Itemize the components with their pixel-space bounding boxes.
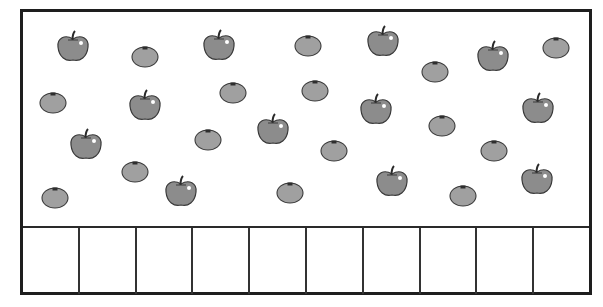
counting-box[interactable] xyxy=(23,228,80,294)
small-apple-icon xyxy=(428,113,456,141)
big-apple-icon xyxy=(519,163,555,201)
small-apple-icon xyxy=(194,127,222,155)
counting-box[interactable] xyxy=(80,228,137,294)
counting-grid xyxy=(23,226,589,294)
small-apple-icon xyxy=(131,44,159,72)
big-apple-icon xyxy=(127,89,163,127)
small-apple-icon xyxy=(320,138,348,166)
counting-box[interactable] xyxy=(364,228,421,294)
big-apple-icon xyxy=(374,165,410,203)
small-apple-icon xyxy=(301,78,329,106)
counting-box[interactable] xyxy=(250,228,307,294)
small-apple-icon xyxy=(39,90,67,118)
big-apple-icon xyxy=(358,93,394,131)
counting-box[interactable] xyxy=(477,228,534,294)
big-apple-icon xyxy=(365,25,401,63)
small-apple-icon xyxy=(449,183,477,211)
big-apple-icon xyxy=(163,175,199,213)
small-apple-icon xyxy=(121,159,149,187)
apple-field xyxy=(23,12,589,226)
small-apple-icon xyxy=(276,180,304,208)
small-apple-icon xyxy=(219,80,247,108)
big-apple-icon xyxy=(201,29,237,67)
big-apple-icon xyxy=(55,30,91,68)
big-apple-icon xyxy=(255,113,291,151)
big-apple-icon xyxy=(520,92,556,130)
big-apple-icon xyxy=(68,128,104,166)
small-apple-icon xyxy=(421,59,449,87)
big-apple-icon xyxy=(475,40,511,78)
counting-box[interactable] xyxy=(193,228,250,294)
counting-box[interactable] xyxy=(421,228,478,294)
small-apple-icon xyxy=(294,33,322,61)
worksheet-frame xyxy=(20,9,592,295)
counting-box[interactable] xyxy=(307,228,364,294)
small-apple-icon xyxy=(41,185,69,213)
small-apple-icon xyxy=(542,35,570,63)
counting-box[interactable] xyxy=(534,228,589,294)
counting-box[interactable] xyxy=(137,228,194,294)
small-apple-icon xyxy=(480,138,508,166)
